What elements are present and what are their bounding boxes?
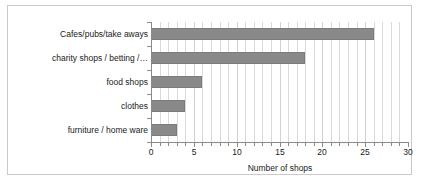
- x-axis-tick: [331, 143, 332, 146]
- x-axis-tick: [399, 143, 400, 146]
- x-axis-tick: [177, 143, 178, 146]
- bar: [151, 52, 305, 64]
- y-axis-label: clothes: [14, 101, 148, 111]
- x-axis-tick: [262, 143, 263, 146]
- x-axis-tick-label: 0: [139, 147, 163, 157]
- x-axis-tick-label: 5: [182, 147, 206, 157]
- y-axis-label: Cafes/pubs/take aways: [14, 29, 148, 39]
- x-axis-tick: [228, 143, 229, 146]
- x-axis-tick: [305, 143, 306, 146]
- x-axis-tick: [211, 143, 212, 146]
- x-axis-tick: [220, 143, 221, 146]
- x-axis-tick: [314, 143, 315, 146]
- bar: [151, 100, 185, 112]
- x-axis-tick: [168, 143, 169, 146]
- x-axis-tick: [297, 143, 298, 146]
- x-axis-tick-label: 25: [353, 147, 377, 157]
- y-axis-label: furniture / home ware: [14, 125, 148, 135]
- x-axis-tick: [202, 143, 203, 146]
- bar: [151, 76, 202, 88]
- x-axis-tick: [271, 143, 272, 146]
- x-axis-tick-label: 30: [396, 147, 420, 157]
- x-axis-title: Number of shops: [151, 163, 409, 173]
- x-axis-tick: [254, 143, 255, 146]
- plot-area: [151, 22, 408, 142]
- chart-screenshot: Cafes/pubs/take awayscharity shops / bet…: [0, 0, 425, 185]
- y-axis-label: food shops: [14, 77, 148, 87]
- bar: [151, 28, 374, 40]
- y-axis-category-labels: Cafes/pubs/take awayscharity shops / bet…: [12, 6, 148, 185]
- chart-frame: Cafes/pubs/take awayscharity shops / bet…: [7, 5, 412, 175]
- x-axis-tick: [160, 143, 161, 146]
- x-axis-tick: [245, 143, 246, 146]
- x-axis-tick: [374, 143, 375, 146]
- x-axis-tick: [288, 143, 289, 146]
- x-axis-tick: [185, 143, 186, 146]
- y-axis-label: charity shops / betting /…: [14, 53, 148, 63]
- bar-series: [151, 22, 408, 142]
- x-axis-tick: [357, 143, 358, 146]
- y-axis-line: [151, 22, 152, 143]
- x-axis-tick: [382, 143, 383, 146]
- bar: [151, 124, 177, 136]
- x-axis-tick: [339, 143, 340, 146]
- x-axis-tick-label: 15: [268, 147, 292, 157]
- x-axis-tick: [348, 143, 349, 146]
- x-axis-tick: [391, 143, 392, 146]
- x-axis-tick-label: 20: [310, 147, 334, 157]
- x-axis-tick-label: 10: [225, 147, 249, 157]
